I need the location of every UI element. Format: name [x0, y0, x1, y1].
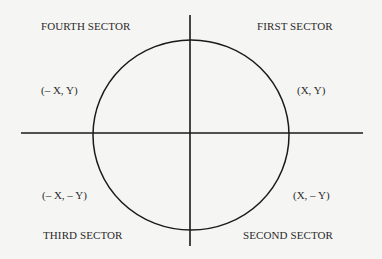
diagram-canvas	[0, 0, 382, 259]
fourth-sector-label: FOURTH SECTOR	[41, 21, 130, 32]
second-sector-coords: (X, – Y)	[293, 190, 330, 201]
third-sector-coords: (– X, – Y)	[42, 190, 87, 201]
second-sector-label: SECOND SECTOR	[243, 230, 333, 241]
fourth-sector-coords: (– X, Y)	[41, 85, 78, 96]
first-sector-coords: (X, Y)	[297, 85, 325, 96]
first-sector-label: FIRST SECTOR	[257, 21, 333, 32]
circle	[93, 40, 289, 230]
third-sector-label: THIRD SECTOR	[43, 230, 123, 241]
